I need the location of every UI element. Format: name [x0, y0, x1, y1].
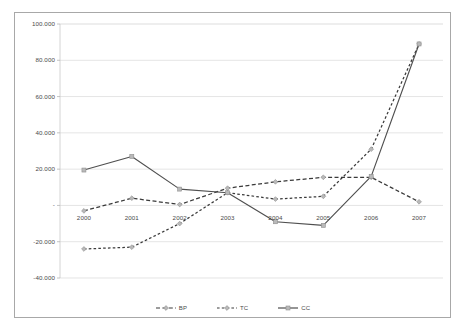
x-axis-tick-label: 2004	[255, 214, 295, 221]
data-point-marker	[129, 245, 134, 250]
legend-swatch-icon	[156, 305, 176, 311]
data-point-marker	[225, 186, 230, 191]
y-axis-tick-label: 40.000	[35, 129, 55, 136]
data-point-marker	[321, 223, 325, 227]
data-point-marker	[417, 199, 422, 204]
series-line-bp	[84, 177, 419, 211]
legend-item-cc[interactable]: CC	[278, 305, 310, 311]
legend-item-tc[interactable]: TC	[217, 305, 248, 311]
legend-label: BP	[179, 305, 187, 311]
grid-lines	[60, 24, 443, 278]
legend-item-bp[interactable]: BP	[156, 305, 187, 311]
x-axis-tick-label: 2002	[160, 214, 200, 221]
data-point-marker	[369, 174, 373, 178]
data-point-marker	[130, 154, 134, 158]
data-point-marker	[417, 42, 421, 46]
x-axis-tick-label: 2001	[112, 214, 152, 221]
legend-swatch-icon	[278, 305, 298, 311]
data-point-marker	[177, 202, 182, 207]
axis-lines	[57, 24, 60, 278]
chart-svg	[0, 0, 466, 332]
line-chart: 100.00080.00060.00040.00020.000--20.000-…	[0, 0, 466, 332]
data-point-marker	[321, 175, 326, 180]
legend-swatch-icon	[217, 305, 237, 311]
legend-label: CC	[301, 305, 310, 311]
x-axis-tick-label: 2003	[208, 214, 248, 221]
data-point-marker	[226, 191, 230, 195]
y-axis-tick-label: 80.000	[35, 56, 55, 63]
x-axis-tick-label: 2005	[303, 214, 343, 221]
chart-legend: BPTCCC	[0, 302, 466, 314]
data-point-marker	[273, 179, 278, 184]
data-point-marker	[178, 187, 182, 191]
legend-label: TC	[240, 305, 248, 311]
data-point-marker	[82, 208, 87, 213]
data-point-marker	[82, 247, 87, 252]
data-point-marker	[177, 221, 182, 226]
y-axis-tick-label: -20.000	[33, 238, 55, 245]
data-point-marker	[82, 168, 86, 172]
y-axis-tick-label: 20.000	[35, 165, 55, 172]
y-axis-tick-label: -	[53, 201, 55, 208]
x-axis-tick-label: 2006	[351, 214, 391, 221]
x-axis-tick-label: 2007	[399, 214, 439, 221]
data-point-marker	[273, 197, 278, 202]
y-axis-tick-label: 60.000	[35, 93, 55, 100]
data-point-marker	[129, 196, 134, 201]
y-axis-tick-label: -40.000	[33, 274, 55, 281]
y-axis-tick-label: 100.000	[32, 20, 55, 27]
x-axis-tick-label: 2000	[64, 214, 104, 221]
